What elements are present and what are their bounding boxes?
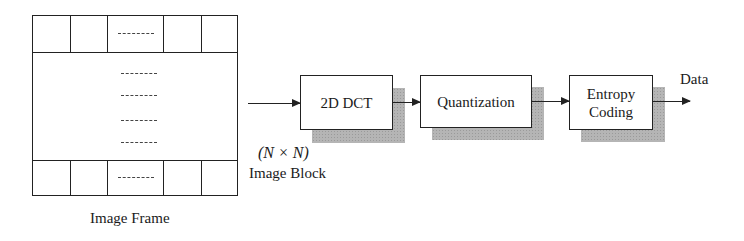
grid-line xyxy=(163,160,164,196)
ellipsis-dash xyxy=(121,95,157,96)
block-size-label: (N × N) xyxy=(258,144,309,162)
grid-line xyxy=(163,16,164,52)
ellipsis-dash xyxy=(121,142,157,143)
dct-box: 2D DCT xyxy=(300,75,393,130)
ellipsis-dash xyxy=(118,177,154,178)
top-row-divider xyxy=(33,52,237,53)
quant-label: Quantization xyxy=(437,93,514,111)
ellipsis-dash xyxy=(121,120,157,121)
output-label: Data xyxy=(680,71,708,88)
quant-box: Quantization xyxy=(420,75,532,128)
entropy-label-line2: Coding xyxy=(589,103,633,121)
grid-line xyxy=(201,16,202,52)
ellipsis-dash xyxy=(118,33,154,34)
grid-line xyxy=(201,160,202,196)
grid-line xyxy=(107,16,108,52)
quant-to-entropy-arrow xyxy=(532,101,569,102)
entropy-label-line1: Entropy xyxy=(587,85,635,103)
grid-line xyxy=(107,160,108,196)
ellipsis-dash xyxy=(121,73,157,74)
dct-label: 2D DCT xyxy=(320,94,372,112)
image-frame xyxy=(32,15,238,196)
output-arrow xyxy=(653,101,690,102)
image-block-label: Image Block xyxy=(249,165,326,182)
input-arrow xyxy=(248,103,300,104)
grid-line xyxy=(70,160,71,196)
bottom-row-divider xyxy=(33,160,237,161)
frame-label: Image Frame xyxy=(90,210,170,227)
grid-line xyxy=(70,16,71,52)
dct-to-quant-arrow xyxy=(393,102,420,103)
entropy-box: Entropy Coding xyxy=(569,75,653,130)
